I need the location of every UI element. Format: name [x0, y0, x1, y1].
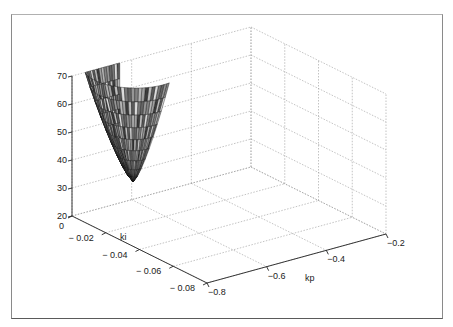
z-tick-label: 20	[57, 211, 67, 221]
x-tick-label: −0.2	[387, 238, 405, 248]
y-tick-label: − 0.06	[136, 266, 161, 276]
x-tick-label: −0.8	[208, 287, 226, 297]
x-tick-label: −0.6	[268, 271, 286, 281]
y-tick-label: − 0.04	[102, 250, 127, 260]
z-tick-label: 70	[57, 71, 67, 81]
surface-plot: 2030405060700− 0.02− 0.04− 0.06− 0.08−0.…	[0, 0, 453, 327]
y-axis-label: ki	[120, 232, 127, 242]
z-tick-label: 60	[57, 99, 67, 109]
x-axis-label: kp	[305, 273, 315, 283]
x-tick-label: −0.4	[327, 254, 345, 264]
z-tick-label: 50	[57, 127, 67, 137]
z-tick-label: 30	[57, 183, 67, 193]
y-tick-label: − 0.08	[170, 283, 195, 293]
z-tick-label: 40	[57, 155, 67, 165]
y-tick-label: − 0.02	[68, 233, 93, 243]
y-tick-label: 0	[59, 221, 64, 231]
